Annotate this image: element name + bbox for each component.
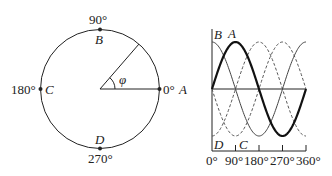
angle-label-90: 90° [89, 12, 107, 27]
point-B-dot [98, 28, 102, 32]
x-tick-label-90: 90° [225, 153, 243, 168]
x-tick-label-180: 180° [244, 153, 269, 168]
waveform-group: B A D C 0° 90° 180° 270° 360° [206, 26, 321, 168]
curve-label-A: A [227, 26, 236, 41]
point-label-A: A [178, 82, 187, 97]
point-label-D: D [94, 132, 105, 147]
point-A-dot [158, 87, 162, 91]
x-tick-label-360: 360° [296, 153, 321, 168]
angle-phi-label: φ [119, 72, 126, 87]
angle-arc [110, 78, 115, 89]
curve-label-C: C [239, 137, 248, 152]
curve-label-B: B [214, 27, 222, 42]
diagram-canvas: φ 0° A 90° B 180° C 270° D B A D C 0° 90… [0, 0, 332, 176]
angle-label-180: 180° [11, 82, 36, 97]
point-label-C: C [45, 82, 54, 97]
x-tick-label-270: 270° [270, 153, 295, 168]
angle-label-270: 270° [88, 151, 113, 166]
point-D-dot [98, 147, 102, 151]
point-label-B: B [95, 32, 103, 47]
angle-label-0: 0° [163, 82, 175, 97]
x-tick-label-0: 0° [206, 153, 218, 168]
point-C-dot [39, 87, 43, 91]
phasor-circle-group: φ 0° A 90° B 180° C 270° D [11, 12, 187, 166]
curve-label-D: D [213, 137, 224, 152]
